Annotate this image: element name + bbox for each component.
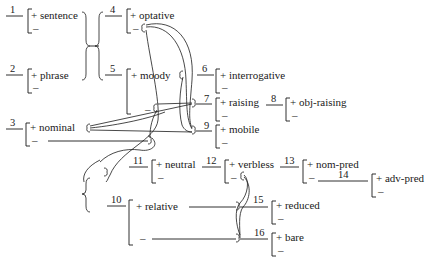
feature-minus-label: – — [132, 22, 139, 34]
feature-12-verbless: 12 + verbless – — [202, 155, 274, 183]
feature-plus-label: + moody — [131, 69, 171, 81]
feature-minus-label: – — [32, 81, 39, 93]
feature-plus-label: + optative — [130, 9, 175, 21]
feature-8-obj-raising: 8 + obj-raising – — [266, 93, 347, 121]
feature-number: 3 — [10, 117, 15, 128]
feature-7-raising: 7 + raising – — [192, 93, 259, 121]
feature-number: 4 — [110, 4, 116, 15]
feature-plus-label: + neutral — [156, 158, 196, 170]
feature-number: 11 — [133, 155, 143, 166]
feature-15-reduced: 15 + reduced – — [240, 194, 320, 224]
feature-5-moody: 5 + moody – — [105, 63, 183, 115]
feature-number: 16 — [254, 227, 265, 238]
feature-plus-label: + sentence — [31, 9, 78, 21]
feature-minus-label: – — [139, 232, 146, 244]
system-network-diagram: 1 + sentence – 2 + phrase – 4 + optative… — [0, 0, 438, 263]
feature-2-phrase: 2 + phrase – — [6, 63, 69, 93]
feature-minus-label: – — [32, 22, 39, 34]
feature-plus-label: + relative — [136, 200, 178, 212]
feature-number: 12 — [206, 155, 217, 166]
feature-11-neutral: 11 + neutral – — [129, 155, 196, 183]
feature-minus-label: – — [277, 212, 284, 224]
feature-plus-label: + obj-raising — [290, 96, 347, 108]
feature-9-mobile: 9 + mobile – — [192, 120, 260, 148]
feature-3-nominal: 3 + nominal – — [6, 117, 151, 146]
feature-plus-label: + mobile — [220, 123, 260, 135]
feature-minus-label: – — [157, 171, 164, 183]
feature-16-bare: 16 + bare – — [240, 227, 304, 256]
feature-minus-label: – — [221, 81, 228, 93]
feature-plus-label: + verbless — [229, 158, 274, 170]
feature-plus-label: + reduced — [276, 199, 320, 211]
feature-number: 13 — [284, 155, 295, 166]
feature-minus-label: – — [221, 109, 228, 121]
feature-4-optative: 4 + optative – — [105, 4, 175, 34]
feature-number: 14 — [338, 169, 349, 180]
feature-plus-label: + interrogative — [220, 69, 285, 81]
feature-number: 10 — [111, 194, 122, 205]
feature-number: 9 — [204, 120, 209, 131]
feature-minus-label: – — [31, 134, 38, 146]
feature-plus-label: + phrase — [31, 69, 69, 81]
feature-minus-label: – — [230, 171, 237, 183]
feature-number: 5 — [110, 63, 115, 74]
feature-number: 1 — [10, 4, 15, 15]
feature-plus-label: + adv-pred — [376, 172, 425, 184]
feature-number: 2 — [10, 63, 15, 74]
feature-number: 15 — [253, 194, 264, 205]
feature-minus-label: – — [277, 244, 284, 256]
feature-minus-label: – — [221, 136, 228, 148]
feature-number: 8 — [271, 93, 276, 104]
feature-plus-label: + raising — [220, 96, 259, 108]
feature-plus-label: + nominal — [30, 121, 75, 133]
feature-10-relative: 10 + relative – — [107, 194, 239, 245]
feature-minus-label: – — [291, 109, 298, 121]
feature-1-sentence: 1 + sentence – — [6, 4, 78, 34]
feature-number: 7 — [204, 93, 209, 104]
feature-minus-label: – — [308, 171, 315, 183]
feature-14-adv-pred: 14 + adv-pred – — [318, 169, 425, 197]
feature-6-interrogative: 6 + interrogative – — [197, 63, 285, 93]
conjunction-brace — [82, 12, 103, 80]
feature-plus-label: + nom-pred — [307, 158, 359, 170]
feature-number: 6 — [202, 63, 207, 74]
feature-plus-label: + bare — [276, 231, 304, 243]
feature-minus-label: – — [377, 185, 384, 197]
